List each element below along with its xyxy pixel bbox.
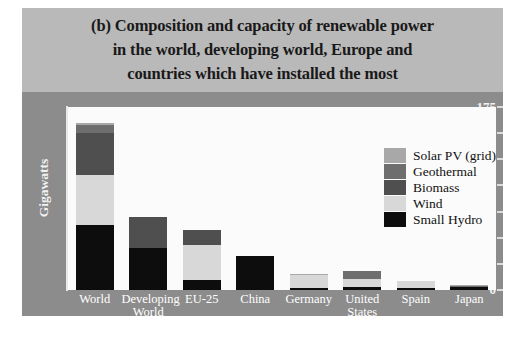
bar-segment xyxy=(183,280,221,290)
legend-label: Geothermal xyxy=(413,164,477,179)
bar-eu-25 xyxy=(183,230,221,290)
x-axis-label: UnitedStates xyxy=(336,293,390,319)
x-axis-label: Japan xyxy=(443,293,497,306)
bar-segment xyxy=(236,256,274,291)
x-axis-label-line-1: Germany xyxy=(282,293,336,306)
bar-segment xyxy=(290,275,328,288)
title-band: (b) Composition and capacity of renewabl… xyxy=(22,8,503,92)
bar-segment xyxy=(450,287,488,290)
chart-panel: 0255075100125150175 Gigawatts Solar PV (… xyxy=(22,92,503,316)
legend-label: Small Hydro xyxy=(413,212,482,227)
legend-swatch xyxy=(384,148,406,163)
bar-japan xyxy=(450,285,488,290)
bar-segment xyxy=(76,125,114,133)
x-axis-label-line-1: Spain xyxy=(389,293,443,306)
x-axis-label-line-1: China xyxy=(229,293,283,306)
bar-germany xyxy=(290,274,328,290)
x-axis-label: DevelopingWorld xyxy=(122,293,176,319)
bar-world xyxy=(76,123,114,290)
chart-legend: Solar PV (grid)GeothermalBiomassWindSmal… xyxy=(384,147,496,227)
y-axis-tick-mark xyxy=(497,289,503,291)
x-axis-label-line-1: World xyxy=(68,293,122,306)
legend-item: Small Hydro xyxy=(384,211,496,227)
legend-item: Solar PV (grid) xyxy=(384,147,496,163)
bar-segment xyxy=(290,288,328,290)
bar-segment xyxy=(183,245,221,280)
y-axis-tick-mark xyxy=(497,211,503,213)
legend-swatch xyxy=(384,212,406,227)
y-axis-label: Gigawatts xyxy=(36,118,52,258)
title-line-2: in the world, developing world, Europe a… xyxy=(22,38,503,62)
legend-item: Geothermal xyxy=(384,163,496,179)
bar-china xyxy=(236,256,274,291)
legend-item: Wind xyxy=(384,195,496,211)
legend-item: Biomass xyxy=(384,179,496,195)
title-line-1: (b) Composition and capacity of renewabl… xyxy=(22,14,503,38)
legend-label: Biomass xyxy=(413,180,460,195)
x-axis-label-line-1: Japan xyxy=(443,293,497,306)
bar-segment xyxy=(397,281,435,288)
x-axis-label: Germany xyxy=(282,293,336,306)
y-axis-tick-mark xyxy=(497,106,503,108)
bar-segment xyxy=(76,175,114,225)
x-axis-labels: WorldDevelopingWorldEU-25ChinaGermanyUni… xyxy=(68,292,496,316)
legend-label: Wind xyxy=(413,196,442,211)
y-axis-tick-mark xyxy=(497,184,503,186)
bar-developing-world xyxy=(129,217,167,290)
bar-segment xyxy=(343,271,381,278)
page-title: (b) Composition and capacity of renewabl… xyxy=(22,14,503,86)
title-line-3: countries which have installed the most xyxy=(22,62,503,86)
bar-segment xyxy=(397,288,435,290)
plot-area: Solar PV (grid)GeothermalBiomassWindSmal… xyxy=(68,107,496,290)
y-axis-tick-mark xyxy=(497,132,503,134)
y-axis-tick-mark xyxy=(497,263,503,265)
x-axis-label: China xyxy=(229,293,283,306)
x-axis-label-line-1: EU-25 xyxy=(175,293,229,306)
legend-swatch xyxy=(384,180,406,195)
bar-segment xyxy=(129,217,167,248)
figure-container: (b) Composition and capacity of renewabl… xyxy=(0,0,525,337)
x-axis-label: Spain xyxy=(389,293,443,306)
y-axis-tick-mark xyxy=(497,158,503,160)
legend-label: Solar PV (grid) xyxy=(413,148,496,163)
x-axis-label: EU-25 xyxy=(175,293,229,306)
legend-swatch xyxy=(384,196,406,211)
bar-segment xyxy=(343,287,381,290)
x-axis-label-line-2: States xyxy=(336,306,390,319)
legend-swatch xyxy=(384,164,406,179)
x-axis-label-line-2: World xyxy=(122,306,176,319)
bar-united-states xyxy=(343,271,381,290)
bar-segment xyxy=(76,225,114,290)
bar-segment xyxy=(76,133,114,175)
bar-segment xyxy=(129,248,167,290)
bar-segment xyxy=(183,230,221,245)
bar-spain xyxy=(397,281,435,290)
bar-segment xyxy=(343,279,381,287)
x-axis-label: World xyxy=(68,293,122,306)
y-axis-tick-mark xyxy=(497,237,503,239)
